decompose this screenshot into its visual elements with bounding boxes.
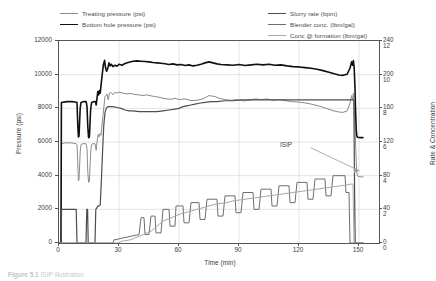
tick-mark — [55, 107, 58, 108]
legend-swatch-icon — [268, 13, 286, 14]
y-axis-tick-label-conc: 10 — [383, 76, 405, 83]
tick-mark — [379, 74, 382, 75]
tick-mark — [379, 40, 382, 41]
tick-mark — [379, 141, 382, 142]
y-axis-tick-label-conc: 4 — [383, 177, 405, 184]
tick-mark — [55, 74, 58, 75]
y-axis-tick-label-left: 0 — [12, 238, 52, 245]
y-axis-tick-label-conc: 12 — [383, 42, 405, 49]
x-axis-tick-label: 120 — [283, 246, 313, 253]
x-axis-tick-label: 0 — [43, 246, 73, 253]
tick-mark — [238, 243, 239, 246]
y-axis-label-right: Rate & Concentration — [429, 84, 436, 184]
legend-swatch-icon — [60, 13, 78, 14]
figure-caption: Figure 5.1 ISIP illustration — [8, 271, 84, 278]
x-axis-tick-label: 30 — [103, 246, 133, 253]
tick-mark — [379, 175, 382, 176]
tick-mark — [379, 107, 382, 108]
annotation-leader-line — [311, 148, 359, 171]
legend-item-label: Bottom hole pressure (psi) — [82, 19, 156, 30]
tick-mark — [178, 243, 179, 246]
figure-number: Figure 5.1 — [8, 271, 39, 278]
y-axis-tick-label-left: 12000 — [12, 36, 52, 43]
y-axis-tick-label-conc: 6 — [383, 143, 405, 150]
legend-item-label: Blender conc. (lbm/gal) — [290, 19, 355, 30]
tick-mark — [55, 175, 58, 176]
plot-area — [58, 40, 380, 244]
legend-swatch-icon — [60, 24, 78, 25]
y-axis-tick-label-left: 2000 — [12, 204, 52, 211]
legend-swatch-icon — [268, 24, 286, 25]
y-axis-tick-label-left: 6000 — [12, 137, 52, 144]
y-axis-tick-label-left: 10000 — [12, 70, 52, 77]
series-line — [59, 184, 363, 243]
y-axis-tick-label-conc: 0 — [383, 244, 405, 251]
series-line — [59, 60, 363, 243]
legend-left: Treating pressure (psi)Bottom hole press… — [60, 8, 156, 30]
series-line — [59, 100, 363, 243]
legend-item: Treating pressure (psi) — [60, 8, 156, 19]
tick-mark — [298, 243, 299, 246]
tick-mark — [358, 243, 359, 246]
y-axis-tick-label-conc: 2 — [383, 210, 405, 217]
grid-and-series — [59, 41, 379, 243]
x-axis-tick-label: 150 — [343, 246, 373, 253]
tick-mark — [379, 208, 382, 209]
isip-annotation-label: ISIP — [280, 141, 292, 148]
tick-mark — [55, 40, 58, 41]
x-axis-label: Time (min) — [160, 259, 280, 266]
tick-mark — [55, 141, 58, 142]
tick-mark — [58, 243, 59, 246]
legend-right: Slurry rate (bpm)Blender conc. (lbm/gal)… — [268, 8, 367, 41]
tick-mark — [379, 242, 382, 243]
legend-swatch-icon — [268, 35, 286, 36]
y-axis-tick-label-left: 8000 — [12, 103, 52, 110]
legend-item: Blender conc. (lbm/gal) — [268, 19, 367, 30]
legend-item-label: Slurry rate (bpm) — [290, 8, 337, 19]
figure-caption-text: ISIP illustration — [41, 271, 84, 278]
x-axis-tick-label: 90 — [223, 246, 253, 253]
legend-item: Bottom hole pressure (psi) — [60, 19, 156, 30]
tick-mark — [55, 208, 58, 209]
legend-item: Slurry rate (bpm) — [268, 8, 367, 19]
legend-item-label: Treating pressure (psi) — [82, 8, 145, 19]
tick-mark — [118, 243, 119, 246]
x-axis-tick-label: 60 — [163, 246, 193, 253]
y-axis-tick-label-conc: 8 — [383, 109, 405, 116]
y-axis-tick-label-left: 4000 — [12, 171, 52, 178]
